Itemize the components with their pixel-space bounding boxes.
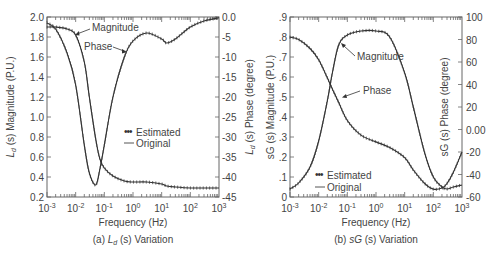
y2-tick-label: -20 — [222, 92, 237, 103]
chart-b-x-tick-labels: 10-3 10-2 10-1 100 101 102 103 — [281, 202, 469, 214]
y-tick-label: 0.6 — [30, 152, 44, 163]
y-tick-label: 1.6 — [30, 52, 44, 63]
arrow-icon — [346, 91, 360, 96]
legend-label-estimated: Estimated — [136, 127, 180, 138]
x-tick-label: 10-2 — [310, 202, 327, 214]
y2-tick-label: 80 — [466, 35, 478, 46]
x-tick-label: 10-1 — [339, 202, 356, 214]
chart-a-legend: ••• Estimated Original — [124, 126, 180, 149]
y-tick-label: .4 — [279, 112, 288, 123]
x-tick-label: 102 — [183, 202, 198, 214]
dotted-line-icon: ••• — [315, 169, 324, 180]
dotted-line-icon: ••• — [124, 126, 133, 137]
y-tick-label: 2.0 — [30, 12, 44, 23]
y-tick-label: 0.8 — [30, 132, 44, 143]
legend-label-original: Original — [136, 138, 170, 149]
chart-a-magnitude-annotation: Magnitude — [92, 22, 139, 33]
x-tick-label: 10-3 — [281, 202, 298, 214]
x-tick-label: 101 — [154, 202, 169, 214]
chart-a: 0.2 0.4 0.6 0.8 1.0 1.2 1.4 1.6 1.8 2.0 … — [5, 12, 256, 246]
chart-b-magnitude-annotation: Magnitude — [357, 51, 404, 62]
y-tick-label: .9 — [279, 12, 288, 23]
y2-tick-label: 20 — [466, 102, 478, 113]
y-tick-label: .6 — [279, 72, 288, 83]
y-tick-label: 1.0 — [30, 112, 44, 123]
legend-label-original: Original — [327, 182, 361, 193]
y2-tick-label: 40 — [466, 80, 478, 91]
x-tick-label: 10-3 — [38, 202, 55, 214]
y2-tick-label: -15 — [222, 72, 237, 83]
y-tick-label: 1.2 — [30, 92, 44, 103]
x-tick-label: 103 — [454, 202, 469, 214]
y2-tick-label: 100 — [466, 12, 483, 23]
y-tick-label: 0 — [281, 192, 287, 203]
arrowhead-icon — [75, 31, 80, 36]
chart-a-x-tick-labels: 10-3 10-2 10-1 100 101 102 103 — [38, 202, 226, 214]
y2-tick-label: -40 — [466, 170, 481, 181]
chart-b-caption: (b) sG (s) Variation — [334, 234, 418, 245]
y-tick-label: .2 — [279, 152, 288, 163]
y-tick-label: .8 — [279, 32, 288, 43]
y-tick-label: .1 — [279, 172, 288, 183]
chart-b-left-axis-title: sG (s) Magnitude (P.U.) — [265, 55, 276, 159]
x-tick-label: 103 — [211, 202, 226, 214]
chart-b-right-axis-title: sG (s) Phase (degree) — [439, 58, 450, 157]
y-tick-label: 1.4 — [30, 72, 44, 83]
chart-a-plot-frame — [47, 17, 219, 197]
chart-a-right-axis-title: Ld (s) Phase (degree) — [244, 59, 256, 155]
y-tick-label: .7 — [279, 52, 288, 63]
x-tick-label: 100 — [125, 202, 140, 214]
chart-a-x-axis-title: Frequency (Hz) — [99, 217, 168, 228]
y2-tick-label: -35 — [222, 152, 237, 163]
y2-tick-label: -5 — [222, 32, 231, 43]
y2-tick-label: -30 — [222, 132, 237, 143]
y2-tick-label: 0.00 — [466, 125, 486, 136]
chart-a-left-y-axis: 0.2 0.4 0.6 0.8 1.0 1.2 1.4 1.6 1.8 2.0 … — [5, 12, 51, 203]
chart-b-legend: ••• Estimated Original — [315, 169, 371, 193]
y2-tick-label: -20 — [466, 147, 481, 158]
y2-tick-label: -25 — [222, 112, 237, 123]
chart-a-left-axis-title: Ld (s) Magnitude (P.U.) — [5, 57, 17, 158]
y-tick-label: 0.2 — [30, 192, 44, 203]
x-tick-label: 101 — [397, 202, 412, 214]
y-tick-label: 0.4 — [30, 172, 44, 183]
legend-label-estimated: Estimated — [327, 170, 371, 181]
chart-a-x-axis — [47, 17, 218, 197]
y2-tick-label: 60 — [466, 57, 478, 68]
y2-tick-label: 0.0 — [222, 12, 236, 23]
chart-b-x-axis-title: Frequency (Hz) — [342, 217, 411, 228]
arrowhead-icon — [342, 94, 347, 98]
x-tick-label: 100 — [368, 202, 383, 214]
y-tick-label: .5 — [279, 92, 288, 103]
y2-tick-label: -10 — [222, 52, 237, 63]
y-tick-label: 1.8 — [30, 32, 44, 43]
y-tick-label: .3 — [279, 132, 288, 143]
y2-tick-label: -40 — [222, 172, 237, 183]
chart-b: 0 .1 .2 .3 .4 .5 .6 .7 .8 .9 sG (s) Magn… — [265, 12, 486, 245]
chart-a-caption: (a) Ld (s) Variation — [93, 234, 173, 246]
chart-a-phase-annotation: Phase — [84, 41, 113, 52]
arrow-icon — [344, 46, 355, 56]
figure: 0.2 0.4 0.6 0.8 1.0 1.2 1.4 1.6 1.8 2.0 … — [0, 0, 498, 254]
x-tick-label: 10-2 — [67, 202, 84, 214]
chart-b-phase-annotation: Phase — [363, 85, 392, 96]
chart-a-right-y-axis: -45 -40 -35 -30 -25 -20 -15 -10 -5 0.0 L… — [215, 12, 256, 203]
x-tick-label: 10-1 — [96, 202, 113, 214]
chart-a-magnitude-curve — [47, 27, 219, 188]
x-tick-label: 102 — [426, 202, 441, 214]
